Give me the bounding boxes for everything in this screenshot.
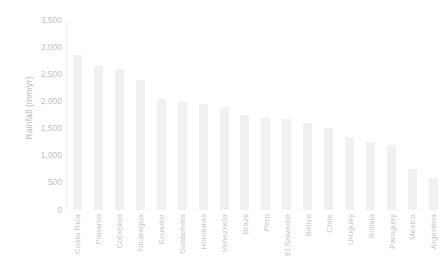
- bar[interactable]: [157, 99, 166, 210]
- x-tick-slot: Peru: [255, 211, 276, 270]
- x-axis-tick-label: Costa Rica: [73, 214, 82, 254]
- bar-slot: [88, 20, 109, 210]
- bar-slot: [276, 20, 297, 210]
- bar-slot: [214, 20, 235, 210]
- x-axis-tick-label: Ecuador: [157, 214, 166, 245]
- y-axis-tick-labels: 3,5003,0002,5002,0001,5001,0005000: [24, 0, 62, 270]
- y-axis-tick-label: 2,000: [24, 97, 62, 106]
- bar[interactable]: [261, 118, 270, 210]
- bar-slot: [235, 20, 256, 210]
- x-tick-slot: Nicaragua: [130, 211, 151, 270]
- x-tick-slot: Ecuador: [151, 211, 172, 270]
- x-axis-tick-label: Peru: [261, 214, 270, 231]
- bar-slot: [318, 20, 339, 210]
- x-tick-slot: Venezuela: [214, 211, 235, 270]
- bar[interactable]: [282, 119, 291, 210]
- x-axis-tick-label: Colombia: [115, 214, 124, 249]
- x-tick-slot: Colombia: [109, 211, 130, 270]
- x-axis-tick-label: Guatemala: [178, 214, 187, 254]
- x-tick-slot: Belize: [297, 211, 318, 270]
- x-axis-tick-label: Bolivia: [366, 214, 375, 238]
- bar-slot: [255, 20, 276, 210]
- x-axis-tick-label: El Salvador: [282, 214, 291, 256]
- y-axis-tick-label: 2,500: [24, 70, 62, 79]
- y-axis-tick-label: 0: [24, 206, 62, 215]
- bar[interactable]: [94, 66, 103, 210]
- x-axis-tick-label: Honduras: [199, 214, 208, 250]
- bar-slot: [423, 20, 444, 210]
- x-axis-tick-label: Belize: [303, 214, 312, 236]
- bar-slot: [297, 20, 318, 210]
- bar[interactable]: [387, 145, 396, 210]
- x-axis-tick-label: Paraguay: [387, 214, 396, 249]
- bar[interactable]: [240, 115, 249, 210]
- bar[interactable]: [178, 102, 187, 210]
- x-tick-slot: Costa Rica: [67, 211, 88, 270]
- y-axis-tick-label: 3,000: [24, 43, 62, 52]
- plot-area: [67, 20, 444, 210]
- bar-slot: [193, 20, 214, 210]
- x-axis-tick-label: Panama: [94, 214, 103, 244]
- bar[interactable]: [115, 69, 124, 210]
- bars-layer: [67, 20, 444, 210]
- x-axis-tick-label: Chile: [324, 214, 333, 233]
- y-axis-tick-label: 1,500: [24, 124, 62, 133]
- x-tick-slot: Paraguay: [381, 211, 402, 270]
- x-tick-slot: Bolivia: [360, 211, 381, 270]
- x-tick-slot: Argentina: [423, 211, 444, 270]
- bar[interactable]: [324, 128, 333, 211]
- bar[interactable]: [408, 169, 417, 210]
- bar-slot: [151, 20, 172, 210]
- bar[interactable]: [366, 142, 375, 210]
- bar-slot: [67, 20, 88, 210]
- bar-slot: [130, 20, 151, 210]
- x-axis-tick-label: Uruguay: [345, 214, 354, 245]
- x-tick-slot: Uruguay: [339, 211, 360, 270]
- bar[interactable]: [136, 80, 145, 210]
- y-axis-tick-label: 500: [24, 178, 62, 187]
- bar-slot: [360, 20, 381, 210]
- x-tick-slot: Panama: [88, 211, 109, 270]
- bar-slot: [172, 20, 193, 210]
- bar[interactable]: [199, 104, 208, 210]
- bar[interactable]: [429, 178, 438, 210]
- x-tick-slot: Brazil: [235, 211, 256, 270]
- x-tick-slot: El Salvador: [276, 211, 297, 270]
- bar[interactable]: [73, 55, 82, 210]
- x-axis-tick-label: Venezuela: [220, 214, 229, 252]
- x-axis-tick-label: Brazil: [240, 214, 249, 235]
- x-axis-tick-label: Argentina: [429, 214, 438, 249]
- y-axis-tick-label: 3,500: [24, 16, 62, 25]
- bar-slot: [381, 20, 402, 210]
- x-tick-slot: Guatemala: [172, 211, 193, 270]
- x-axis-tick-label: Nicaragua: [136, 214, 145, 251]
- x-tick-slot: Honduras: [193, 211, 214, 270]
- bar-slot: [402, 20, 423, 210]
- bar-slot: [109, 20, 130, 210]
- bar-slot: [339, 20, 360, 210]
- x-tick-slot: Mexico: [402, 211, 423, 270]
- x-axis-tick-label: Mexico: [408, 214, 417, 240]
- bar[interactable]: [345, 137, 354, 210]
- bar-chart: Rainfall (mm/yr) 3,5003,0002,5002,0001,5…: [0, 0, 446, 270]
- bar[interactable]: [220, 107, 229, 210]
- x-tick-slot: Chile: [318, 211, 339, 270]
- x-axis-tick-labels: Costa RicaPanamaColombiaNicaraguaEcuador…: [67, 211, 444, 270]
- y-axis-tick-label: 1,000: [24, 151, 62, 160]
- bar[interactable]: [303, 123, 312, 210]
